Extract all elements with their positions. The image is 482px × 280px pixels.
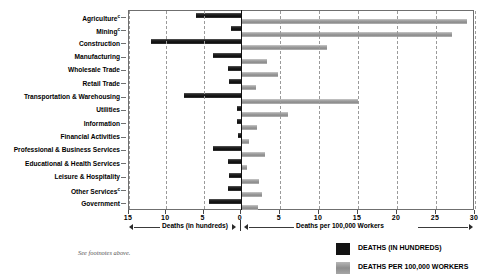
category-label: Retail Trade — [83, 77, 120, 90]
category-label: Utilities — [96, 103, 120, 116]
bar-rate — [241, 99, 358, 104]
category-tick — [121, 150, 126, 151]
bar-row — [129, 25, 473, 38]
category-tick — [121, 83, 126, 84]
value-tick-label: 25 — [431, 214, 440, 221]
value-tick-label: 20 — [392, 214, 401, 221]
footnote-text: See footnotes above. — [78, 249, 130, 256]
gridline — [204, 11, 205, 209]
category-label: Construction — [79, 37, 120, 50]
value-tick-label: 5 — [201, 214, 205, 221]
category-tick — [121, 203, 126, 204]
bar-deaths — [229, 173, 241, 178]
bar-row — [129, 52, 473, 65]
bar-deaths — [228, 186, 241, 191]
bar-rate — [241, 139, 249, 144]
left-axis-label: Deaths (in hundreds) — [162, 222, 228, 229]
bar-rate — [241, 72, 278, 77]
axis-range-line — [418, 227, 468, 228]
bar-rate — [241, 32, 452, 37]
bar-row — [129, 185, 473, 198]
bar-rate — [241, 179, 259, 184]
axis-range-line — [134, 227, 160, 228]
bar-rate — [241, 45, 327, 50]
category-tick — [121, 163, 126, 164]
bar-deaths — [229, 79, 241, 84]
bar-row — [129, 132, 473, 145]
bar-rate — [241, 85, 256, 90]
bar-rows — [129, 11, 473, 209]
axis-arrow-right — [469, 224, 473, 230]
chart-figure: AgriculturecMiningcConstructionManufactu… — [0, 0, 482, 280]
category-label: Financial Activities — [61, 130, 121, 143]
value-tick-label: 10 — [161, 214, 170, 221]
legend-label-deaths: DEATHS (IN HUNDREDS) — [358, 244, 441, 251]
category-label: Manufacturing — [75, 50, 120, 63]
gridline — [397, 11, 398, 209]
gridline — [475, 11, 476, 209]
category-tick — [121, 137, 126, 138]
plot-area — [128, 10, 474, 210]
bar-row — [129, 78, 473, 91]
category-label: Government — [81, 197, 120, 210]
bar-row — [129, 118, 473, 131]
category-label: Information — [84, 117, 120, 130]
category-tick — [121, 70, 126, 71]
category-tick — [121, 190, 126, 191]
category-tick — [121, 110, 126, 111]
gridline — [129, 11, 130, 209]
bar-deaths — [209, 199, 241, 204]
category-tick — [121, 30, 126, 31]
right-axis-label: Deaths per 100,000 Workers — [296, 222, 384, 229]
bar-row — [129, 12, 473, 25]
category-axis: AgriculturecMiningcConstructionManufactu… — [0, 10, 126, 210]
category-label: Transportation & Warehousing — [24, 90, 120, 103]
legend-swatch-rate — [336, 262, 350, 274]
gridline — [319, 11, 320, 209]
axis-arrow-right — [232, 224, 236, 230]
bar-row — [129, 38, 473, 51]
category-label: Agriculturec — [82, 10, 120, 23]
category-label: Professional & Business Services — [14, 143, 120, 156]
value-tick-label: 15 — [124, 214, 133, 221]
bar-rate — [241, 59, 267, 64]
bar-row — [129, 145, 473, 158]
gridline — [280, 11, 281, 209]
value-tick-label: 5 — [277, 214, 281, 221]
category-tick — [121, 123, 126, 124]
category-tick — [121, 177, 126, 178]
bar-deaths — [228, 159, 241, 164]
bar-deaths — [151, 39, 241, 44]
bar-deaths — [228, 66, 241, 71]
zero-axis-line — [241, 10, 242, 210]
legend-swatch-deaths — [336, 243, 350, 255]
category-label: Educational & Health Services — [25, 157, 120, 170]
bar-rate — [241, 152, 265, 157]
category-label: Wholesale Trade — [68, 63, 120, 76]
bar-row — [129, 65, 473, 78]
category-tick — [121, 17, 126, 18]
value-tick-label: 30 — [470, 214, 479, 221]
category-label: Leisure & Hospitality — [54, 170, 120, 183]
value-tick-label: 15 — [353, 214, 362, 221]
category-tick — [121, 43, 126, 44]
bar-rate — [241, 19, 467, 24]
bar-deaths — [213, 53, 241, 58]
bar-row — [129, 172, 473, 185]
axis-divider — [240, 220, 241, 231]
axis-arrow-left — [129, 224, 133, 230]
bar-rate — [241, 125, 257, 130]
gridline — [166, 11, 167, 209]
value-tick-label: 10 — [314, 214, 323, 221]
axis-range-line — [249, 227, 294, 228]
gridline — [436, 11, 437, 209]
axis-arrow-left — [244, 224, 248, 230]
category-tick — [121, 97, 126, 98]
bar-deaths — [231, 26, 241, 31]
bar-row — [129, 92, 473, 105]
bar-deaths — [184, 93, 241, 98]
category-label: Miningc — [96, 23, 120, 36]
bar-rate — [241, 192, 262, 197]
gridline — [358, 11, 359, 209]
bar-row — [129, 158, 473, 171]
